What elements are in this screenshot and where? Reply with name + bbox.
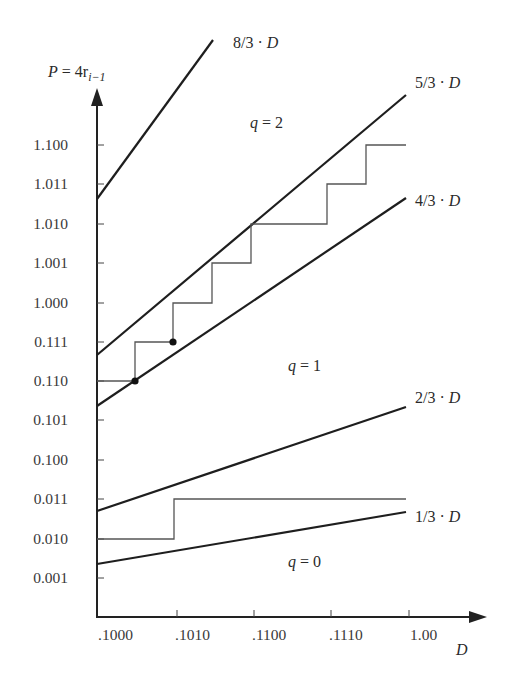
critical-point-dot (169, 338, 176, 345)
y-axis-label: P = 4ri−1 (47, 63, 106, 84)
y-tick-label: 1.000 (33, 294, 68, 311)
region-q0-label: q = 0 (288, 553, 321, 571)
region-labels: q = 2 q = 1 q = 0 (250, 114, 321, 571)
label-1-3-d: 1/3 · D (415, 508, 461, 525)
y-tick-label: 1.001 (33, 254, 68, 271)
label-8-3-d: 8/3 · D (233, 34, 279, 51)
y-tick-labels: 1.100 1.011 1.010 1.001 1.000 0.111 0.11… (33, 136, 68, 586)
y-tick-label: 0.001 (33, 569, 68, 586)
x-axis-arrow-icon (469, 611, 487, 623)
label-5-3-d: 5/3 · D (415, 74, 461, 91)
region-q2-label: q = 2 (250, 114, 283, 132)
pd-plot-diagram: P = 4ri−1 1.100 1.011 1.010 1.001 1.000 … (0, 0, 507, 683)
x-tick-label: .1100 (252, 626, 287, 643)
y-axis-ticks (97, 145, 104, 578)
y-tick-label: 0.010 (33, 530, 68, 547)
x-tick-label: 1.00 (410, 626, 437, 643)
region-q1-label: q = 1 (288, 357, 321, 375)
x-tick-label: .1110 (329, 626, 363, 643)
y-tick-label: 0.101 (33, 411, 68, 428)
x-tick-label: .1000 (98, 626, 133, 643)
line-8-3-d (97, 40, 213, 199)
boundary-labels: 8/3 · D 5/3 · D 4/3 · D 2/3 · D 1/3 · D (233, 34, 461, 525)
x-tick-label: .1010 (175, 626, 210, 643)
x-axis: .1000 .1010 .1100 .1110 1.00 D (96, 610, 487, 658)
line-2-3-d (97, 407, 406, 511)
y-tick-label: 0.111 (34, 333, 68, 350)
y-tick-label: 1.011 (34, 175, 68, 192)
line-1-3-d (97, 512, 406, 564)
label-2-3-d: 2/3 · D (415, 389, 461, 406)
upper-staircase (97, 145, 406, 381)
x-axis-label: D (455, 641, 468, 658)
y-tick-label: 0.100 (33, 451, 68, 468)
critical-point-dot (131, 377, 138, 384)
y-tick-label: 1.100 (33, 136, 68, 153)
y-tick-label: 1.010 (33, 215, 68, 232)
y-tick-label: 0.011 (34, 490, 68, 507)
y-tick-label: 0.110 (34, 372, 69, 389)
y-axis-arrow-icon (91, 88, 103, 106)
label-4-3-d: 4/3 · D (415, 192, 461, 209)
